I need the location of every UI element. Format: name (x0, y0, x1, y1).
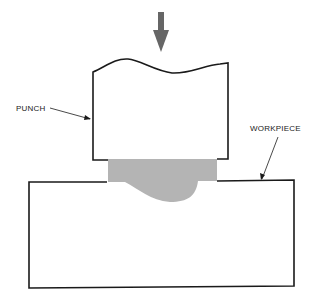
deformed-zone (108, 159, 217, 202)
workpiece-leader-line (260, 137, 278, 180)
force-arrow-icon (153, 12, 169, 52)
punch-outline (93, 59, 228, 160)
punch-leader-line (50, 108, 91, 120)
diagram-canvas (0, 0, 322, 301)
punch-label: PUNCH (16, 104, 45, 113)
workpiece-label: WORKPIECE (250, 124, 301, 133)
